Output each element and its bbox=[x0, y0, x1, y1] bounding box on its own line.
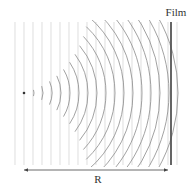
film-label: Film bbox=[166, 6, 187, 18]
spherical-wavefront-arc bbox=[70, 62, 79, 124]
plane-wavefronts bbox=[15, 22, 177, 165]
distance-label: R bbox=[94, 173, 102, 185]
wave-diagram: Film R bbox=[0, 0, 195, 193]
point-source bbox=[23, 92, 26, 95]
spherical-wavefront-arc bbox=[86, 27, 115, 160]
spherical-wavefront-arc bbox=[75, 54, 88, 131]
spherical-wavefront-arc bbox=[57, 76, 61, 110]
spherical-wavefronts bbox=[34, 0, 178, 193]
